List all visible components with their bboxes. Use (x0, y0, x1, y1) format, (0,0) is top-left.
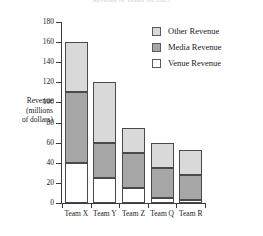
y-axis-tick-label: 40 (8, 159, 54, 167)
y-axis-label-line-2: (millions (1, 106, 53, 116)
chart-title: Revenue of Teams for 2005 (0, 0, 263, 3)
y-axis-tick-label: 120 (8, 78, 54, 86)
bar-segment (179, 175, 202, 200)
bar-group (122, 22, 145, 203)
y-axis-tick-label-text: 80 (14, 119, 54, 127)
y-axis-tick-label-text: 40 (14, 159, 54, 167)
legend-swatch-icon (152, 27, 161, 36)
legend-item: Other Revenue (152, 23, 257, 39)
y-axis-tick-label-text: 60 (14, 139, 54, 147)
y-axis-tick (56, 123, 61, 124)
y-axis-tick-label: 0 (8, 199, 54, 207)
legend-item: Media Revenue (152, 39, 257, 55)
bar-segment (122, 188, 145, 203)
y-axis-tick (56, 183, 61, 184)
y-axis-tick-label-text: 140 (14, 58, 54, 66)
y-axis-tick-label: 100 (8, 98, 54, 106)
bar-group (93, 22, 116, 203)
bar-segment (93, 178, 116, 203)
y-axis-tick (56, 203, 61, 204)
bar-segment (65, 163, 88, 203)
bar-segment (151, 198, 174, 203)
bar-segment (93, 82, 116, 142)
x-axis-tick (91, 204, 92, 208)
x-axis-line (61, 203, 206, 204)
y-axis-tick-label: 60 (8, 139, 54, 147)
bar-segment (151, 143, 174, 168)
y-axis-tick-label-text: 0 (14, 199, 54, 207)
y-axis-tick-label-text: 120 (14, 78, 54, 86)
y-axis-tick (56, 163, 61, 164)
bar-segment (122, 128, 145, 153)
y-axis-tick-label: 20 (8, 179, 54, 187)
legend-item-label: Other Revenue (168, 27, 219, 36)
y-axis-tick-label: 140 (8, 58, 54, 66)
y-axis-tick (56, 82, 61, 83)
legend-item-label: Media Revenue (168, 43, 222, 52)
y-axis-tick (56, 22, 61, 23)
bar-segment (93, 143, 116, 178)
x-axis-tick (205, 204, 206, 208)
bar-segment (122, 153, 145, 188)
legend-item: Venue Revenue (152, 55, 257, 71)
y-axis-tick (56, 42, 61, 43)
y-axis-tick-label-text: 160 (14, 38, 54, 46)
y-axis-tick-label: 80 (8, 119, 54, 127)
x-axis-tick (62, 204, 63, 208)
y-axis-tick-label-text: 100 (14, 98, 54, 106)
x-axis-tick (148, 204, 149, 208)
legend-swatch-icon (152, 59, 161, 68)
bar-segment (151, 168, 174, 198)
y-axis-tick (56, 143, 61, 144)
y-axis-tick-label: 180 (8, 18, 54, 26)
bar-segment (179, 150, 202, 175)
y-axis-tick-label-text: 180 (14, 18, 54, 26)
y-axis-tick (56, 62, 61, 63)
x-axis-tick (176, 204, 177, 208)
bar-segment (65, 42, 88, 92)
legend-item-label: Venue Revenue (168, 59, 221, 68)
chart-legend: Other RevenueMedia RevenueVenue Revenue (152, 23, 257, 71)
bar-segment (179, 200, 202, 203)
x-axis-category-label: Team R (170, 209, 212, 218)
legend-swatch-icon (152, 43, 161, 52)
bar-group (65, 22, 88, 203)
bar-segment (65, 92, 88, 162)
y-axis-tick (56, 102, 61, 103)
y-axis-tick-label: 160 (8, 38, 54, 46)
revenue-stacked-bar-chart: Revenue of Teams for 2005 Revenue (milli… (0, 0, 263, 236)
x-axis-tick (119, 204, 120, 208)
y-axis-tick-label-text: 20 (14, 179, 54, 187)
